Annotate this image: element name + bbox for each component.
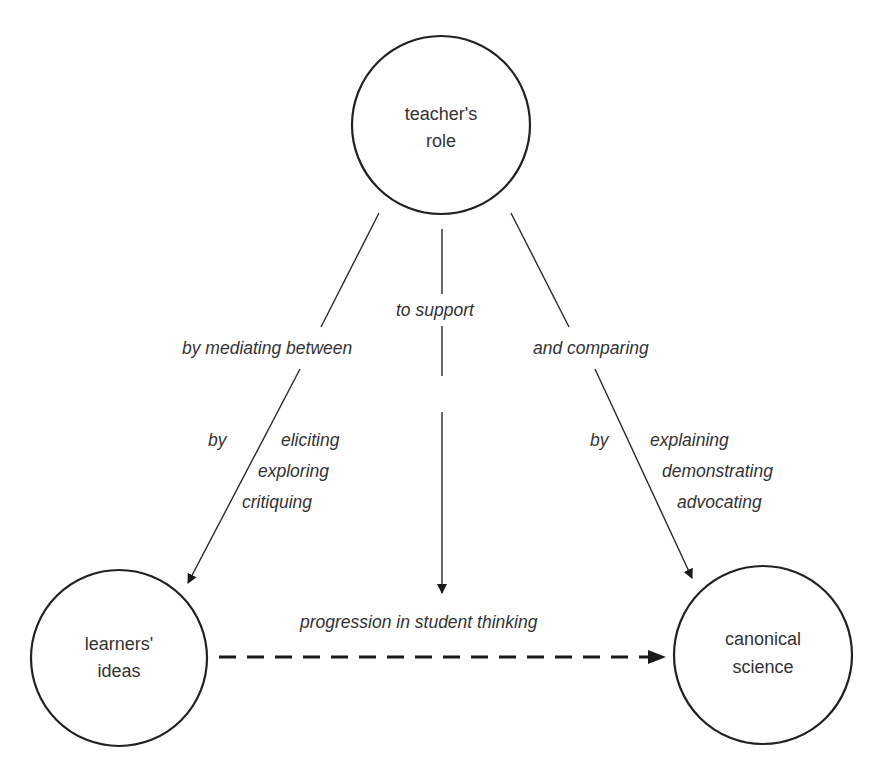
right-method-advocating: advocating xyxy=(677,492,762,512)
node-learners-ideas: learners' ideas xyxy=(31,570,207,746)
teachers-role-label-line2: role xyxy=(426,131,456,151)
learners-ideas-label-line2: ideas xyxy=(97,661,140,681)
learners-ideas-label-line1: learners' xyxy=(85,634,153,654)
progression-arrowhead-icon xyxy=(648,650,666,664)
learners-ideas-circle xyxy=(31,570,207,746)
node-teachers-role: teacher's role xyxy=(352,36,530,214)
left-method-exploring: exploring xyxy=(258,461,329,481)
teachers-role-circle xyxy=(352,36,530,214)
edge-teacher-to-progression: to support xyxy=(396,229,475,593)
right-edge-segment-upper xyxy=(511,213,569,327)
left-by-label: by xyxy=(208,430,228,450)
left-method-critiquing: critiquing xyxy=(242,492,312,512)
right-edge-label: and comparing xyxy=(533,338,649,358)
node-canonical-science: canonical science xyxy=(674,566,852,744)
teachers-role-label-line1: teacher's xyxy=(405,104,477,124)
edge-teacher-to-canonical: and comparing by explaining demonstratin… xyxy=(511,213,773,578)
edge-teacher-to-learners: by mediating between by eliciting explor… xyxy=(182,213,379,583)
canonical-science-label-line2: science xyxy=(732,657,793,677)
right-by-label: by xyxy=(590,430,610,450)
bottom-edge-label: progression in student thinking xyxy=(299,612,538,632)
left-edge-segment-upper xyxy=(321,213,379,327)
center-edge-label: to support xyxy=(396,300,475,320)
left-method-eliciting: eliciting xyxy=(281,430,340,450)
canonical-science-label-line1: canonical xyxy=(725,629,801,649)
right-method-explaining: explaining xyxy=(650,430,729,450)
left-edge-label: by mediating between xyxy=(182,338,352,358)
canonical-science-circle xyxy=(674,566,852,744)
edge-learners-to-canonical: progression in student thinking xyxy=(219,612,666,664)
right-method-demonstrating: demonstrating xyxy=(662,461,773,481)
teaching-triangle-diagram: teacher's role learners' ideas canonical… xyxy=(0,0,886,776)
